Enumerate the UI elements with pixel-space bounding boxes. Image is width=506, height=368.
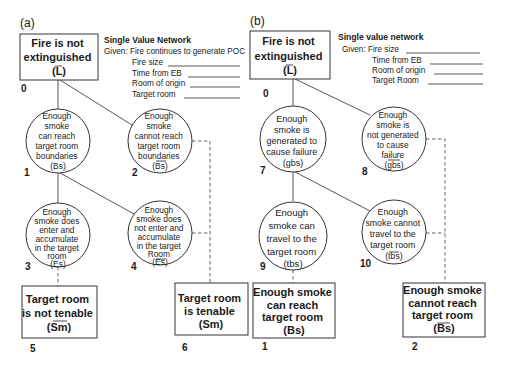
- panel-label: (a): [20, 16, 35, 30]
- node-number: 1: [24, 167, 30, 178]
- given-line: Target room: [132, 90, 176, 99]
- given-line: Given: Fire size: [342, 45, 399, 54]
- node-number: 2: [412, 341, 418, 352]
- given-line: Given: Fire continues to generate POC: [104, 47, 245, 56]
- given-title: Single Value Network: [104, 35, 191, 45]
- node-number: 9: [260, 261, 266, 272]
- node-number: 4: [131, 261, 137, 272]
- dashed-connector-8-2: [426, 139, 445, 283]
- node-number: 3: [25, 261, 31, 272]
- given-line: Fire size: [132, 58, 163, 67]
- event-tree-diagram: (a) Fire is not extinguished (L) 0 Singl…: [0, 0, 506, 368]
- given-line: Time from EB: [132, 69, 182, 78]
- node-number: 10: [360, 258, 372, 269]
- node-number: 0: [263, 88, 269, 99]
- node-number: 7: [260, 165, 266, 176]
- node-number: 1: [262, 341, 268, 352]
- panel-a: (a) Fire is not extinguished (L) 0 Singl…: [20, 16, 248, 354]
- node-number: 6: [182, 342, 188, 353]
- given-title: Single value network: [338, 32, 424, 42]
- given-line: Time from EB: [372, 56, 422, 65]
- node-number: 0: [21, 83, 27, 94]
- dashed-connector-2-6: [192, 141, 210, 283]
- given-line: Room of origin: [372, 66, 426, 75]
- given-line: Target Room: [372, 76, 419, 85]
- node-number: 2: [132, 167, 138, 178]
- panel-b: (b) Fire is not extinguished (L) 0 Singl…: [250, 14, 485, 352]
- node-number: 5: [30, 343, 36, 354]
- node-number: 8: [362, 166, 368, 177]
- given-line: Room of origin: [132, 79, 186, 88]
- panel-label: (b): [250, 14, 265, 28]
